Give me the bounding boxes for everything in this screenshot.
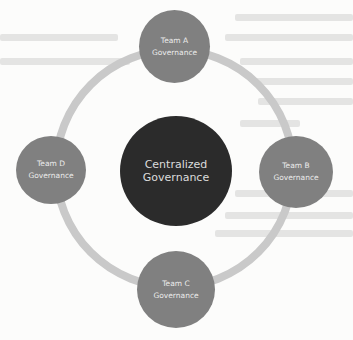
team-a-label-line2: Governance [152, 47, 197, 59]
center-label-line1: Centralized [145, 158, 208, 171]
team-c-label-line2: Governance [153, 290, 198, 302]
team-b-label-line1: Team B [282, 160, 309, 172]
centralized-governance-node: Centralized Governance [120, 116, 232, 226]
team-d-label-line1: Team D [37, 158, 65, 170]
team-c-label-line1: Team C [162, 278, 189, 290]
team-d-governance-node: Team D Governance [16, 136, 86, 204]
team-b-governance-node: Team B Governance [259, 136, 333, 208]
team-a-label-line1: Team A [161, 35, 188, 47]
team-d-label-line2: Governance [28, 170, 73, 182]
team-b-label-line2: Governance [273, 172, 318, 184]
diagram-canvas: Centralized Governance Team A Governance… [0, 0, 353, 340]
team-a-governance-node: Team A Governance [139, 10, 210, 83]
center-label-line2: Governance [143, 171, 209, 184]
team-c-governance-node: Team C Governance [137, 251, 215, 328]
